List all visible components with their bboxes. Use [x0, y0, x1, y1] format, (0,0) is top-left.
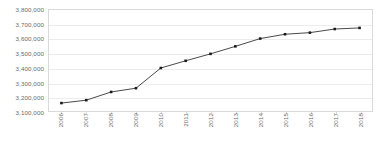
line-chart: 3,800,0003,700,0003,600,0003,500,0003,40…	[0, 0, 386, 148]
data-point-marker	[135, 87, 138, 90]
series-line	[61, 28, 359, 103]
y-tick-label: 3,700,000	[16, 20, 44, 27]
x-tick-label: 2006	[57, 113, 64, 127]
y-tick-label: 3,500,000	[16, 50, 44, 57]
y-tick-label: 3,800,000	[16, 6, 44, 13]
x-tick-label: 2011	[182, 113, 189, 127]
data-point-marker	[85, 99, 88, 102]
data-point-marker	[259, 37, 262, 40]
data-point-marker	[234, 45, 237, 48]
data-point-marker	[309, 31, 312, 34]
plot-area	[48, 9, 373, 112]
data-point-marker	[209, 53, 212, 56]
y-tick-label: 3,300,000	[16, 79, 44, 86]
x-tick-label: 2009	[132, 113, 139, 127]
data-point-marker	[60, 102, 63, 105]
data-point-marker	[160, 67, 163, 70]
x-tick-label: 2016	[307, 113, 314, 127]
data-point-marker	[284, 33, 287, 36]
x-tick-label: 2017	[332, 113, 339, 127]
x-axis: 2006200720082009201020112012201320142015…	[48, 113, 373, 148]
data-point-marker	[110, 91, 113, 94]
y-tick-label: 3,400,000	[16, 64, 44, 71]
data-point-marker	[184, 60, 187, 63]
y-tick-label: 3,600,000	[16, 35, 44, 42]
x-tick-label: 2014	[257, 113, 264, 127]
data-series-svg	[49, 10, 372, 111]
x-tick-label: 2010	[157, 113, 164, 127]
x-tick-label: 2015	[282, 113, 289, 127]
x-tick-label: 2013	[232, 113, 239, 127]
x-tick-label: 2012	[207, 113, 214, 127]
x-tick-label: 2008	[107, 113, 114, 127]
data-point-marker	[333, 28, 336, 31]
x-tick-label: 2018	[357, 113, 364, 127]
y-axis: 3,800,0003,700,0003,600,0003,500,0003,40…	[0, 0, 48, 121]
data-point-marker	[358, 27, 361, 30]
y-tick-label: 3,200,000	[16, 94, 44, 101]
y-tick-label: 3,100,000	[16, 109, 44, 116]
x-tick-label: 2007	[82, 113, 89, 127]
